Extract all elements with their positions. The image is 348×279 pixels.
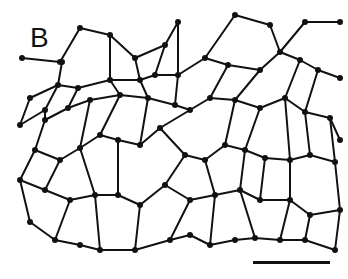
cell-wall	[190, 235, 210, 245]
junction-node	[287, 197, 293, 203]
cell-wall	[245, 150, 265, 158]
junction-node	[42, 107, 48, 113]
cell-wall	[165, 185, 190, 200]
cell-wall	[260, 98, 285, 108]
cell-wall	[205, 160, 215, 195]
cell-wall	[305, 70, 318, 112]
junction-node	[32, 147, 38, 153]
junction-node	[225, 62, 231, 68]
cell-wall	[55, 200, 70, 240]
junction-node	[237, 187, 243, 193]
cell-wall	[310, 155, 335, 162]
junction-node	[232, 12, 238, 18]
cell-wall	[215, 190, 240, 195]
junction-node	[307, 152, 313, 158]
junction-node	[55, 82, 61, 88]
junction-node	[87, 97, 93, 103]
junction-node	[187, 107, 193, 113]
junction-node	[212, 192, 218, 198]
junction-node	[315, 67, 321, 73]
scale-bar	[253, 261, 330, 264]
junction-node	[187, 197, 193, 203]
cell-wall	[95, 195, 100, 250]
junction-node	[297, 57, 303, 63]
junction-node	[65, 105, 71, 111]
junction-node	[92, 192, 98, 198]
junction-node	[67, 197, 73, 203]
cell-wall	[290, 155, 310, 160]
cell-wall	[118, 140, 140, 145]
junction-node	[337, 137, 343, 143]
cell-wall	[60, 28, 80, 62]
junction-node	[167, 237, 173, 243]
junction-node	[145, 95, 151, 101]
junction-node	[75, 85, 81, 91]
junction-node	[202, 55, 208, 61]
cell-wall	[30, 222, 55, 240]
junction-node	[337, 207, 343, 213]
junction-node	[172, 102, 178, 108]
cell-wall	[280, 52, 300, 60]
junction-node	[232, 97, 238, 103]
cell-wall	[185, 155, 205, 160]
junction-node	[337, 19, 343, 25]
cell-wall	[35, 120, 45, 150]
cell-wall	[175, 75, 178, 105]
cell-wall	[305, 112, 310, 155]
junction-node	[267, 22, 273, 28]
cell-wall	[20, 180, 30, 222]
cell-wall	[100, 95, 120, 135]
cell-wall	[80, 28, 110, 35]
figure-panel: B	[0, 0, 348, 279]
junction-node	[137, 77, 143, 83]
junction-node	[232, 237, 238, 243]
junction-node	[97, 132, 103, 138]
cell-wall	[210, 98, 235, 100]
junction-node	[222, 142, 228, 148]
junction-node	[302, 237, 308, 243]
cell-wall	[235, 238, 255, 240]
junction-node	[287, 157, 293, 163]
cell-wall	[235, 70, 260, 100]
junction-node	[262, 155, 268, 161]
junction-node	[59, 59, 65, 65]
junction-node	[187, 232, 193, 238]
cell-wall	[210, 240, 235, 245]
cell-wall	[55, 240, 80, 245]
junction-node	[19, 55, 25, 61]
cell-wall	[235, 15, 270, 25]
cell-wall	[265, 158, 290, 160]
cell-wall	[305, 112, 330, 118]
junction-node	[175, 72, 181, 78]
junction-node	[327, 115, 333, 121]
junction-node	[107, 77, 113, 83]
cell-wall	[35, 150, 60, 160]
junction-node	[257, 105, 263, 111]
junction-node	[77, 25, 83, 31]
cell-wall	[300, 60, 318, 70]
cell-wall	[245, 108, 260, 150]
cell-wall	[285, 60, 300, 98]
cell-wall	[318, 70, 340, 78]
junction-node	[277, 49, 283, 55]
junction-node	[115, 137, 121, 143]
cell-wall	[58, 85, 78, 88]
junction-node	[137, 202, 143, 208]
junction-node	[137, 142, 143, 148]
cell-wall	[90, 95, 120, 100]
junction-node	[277, 237, 283, 243]
junction-node	[162, 182, 168, 188]
cell-wall	[205, 58, 228, 65]
junction-node	[257, 67, 263, 73]
cell-wall	[60, 148, 80, 160]
cell-wall	[285, 98, 290, 160]
cell-wall	[118, 195, 140, 205]
junction-node	[242, 147, 248, 153]
junction-node	[207, 242, 213, 248]
cell-wall	[135, 240, 170, 250]
junction-node	[157, 125, 163, 131]
cell-wall	[80, 100, 90, 148]
cell-wall	[255, 238, 280, 240]
junction-node	[77, 242, 83, 248]
cell-wall	[335, 162, 340, 210]
